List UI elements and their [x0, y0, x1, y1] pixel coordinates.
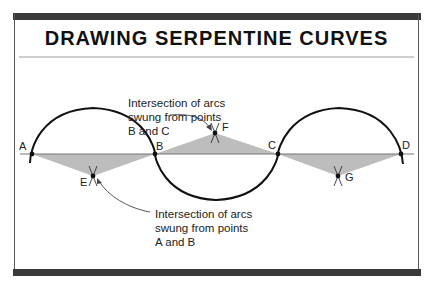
triangle-abe	[32, 154, 155, 176]
point-a	[30, 152, 35, 157]
point-c	[276, 152, 281, 157]
label-d: D	[402, 139, 410, 151]
point-e	[91, 174, 96, 179]
annotation-bottom: Intersection of arcs swung from points A…	[155, 207, 252, 249]
point-g	[336, 174, 341, 179]
point-d	[399, 152, 404, 157]
annotation-bottom-line3: A and B	[155, 235, 252, 249]
label-b: B	[156, 140, 163, 152]
label-e: E	[80, 176, 87, 188]
label-a: A	[19, 140, 27, 152]
label-c: C	[268, 139, 276, 151]
annotation-top-line2: swung from points	[128, 110, 225, 124]
point-b	[153, 152, 158, 157]
label-g: G	[345, 171, 354, 183]
leader-arrow-bottom	[97, 178, 150, 212]
annotation-bottom-line2: swung from points	[155, 221, 252, 235]
annotation-bottom-line1: Intersection of arcs	[155, 207, 252, 221]
annotation-top-line3: B and C	[128, 124, 225, 138]
annotation-top-line1: Intersection of arcs	[128, 96, 225, 110]
annotation-top: Intersection of arcs swung from points B…	[128, 96, 225, 138]
